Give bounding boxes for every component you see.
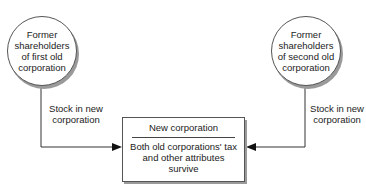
- left-edge-label: Stock in new corporation: [45, 103, 107, 125]
- left-shareholders-node: Former shareholders of first old corpora…: [7, 16, 77, 86]
- new-corporation-title: New corporation: [123, 122, 244, 133]
- left-shareholders-label: Former shareholders of first old corpora…: [10, 29, 74, 73]
- right-arrow-icon: [112, 143, 122, 151]
- right-shareholders-node: Former shareholders of second old corpor…: [271, 16, 341, 86]
- new-corporation-node: New corporation Both old corporations' t…: [122, 117, 245, 182]
- right-shareholders-label: Former shareholders of second old corpor…: [274, 29, 338, 73]
- right-edge-label: Stock in new corporation: [307, 103, 366, 125]
- new-corporation-body: Both old corporations' tax and other att…: [123, 141, 244, 174]
- right-connector-line: [255, 86, 305, 147]
- title-divider: [132, 137, 235, 138]
- left-arrow-icon: [246, 143, 256, 151]
